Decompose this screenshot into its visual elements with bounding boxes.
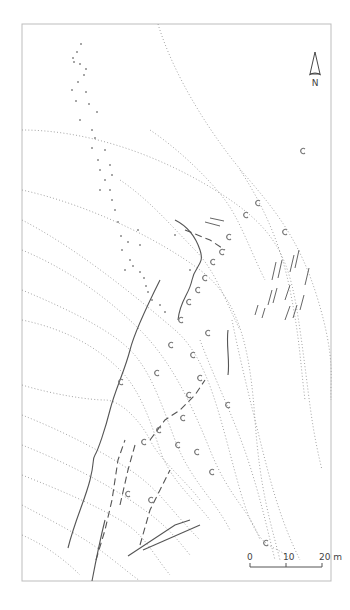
solid-feature-line [227, 330, 228, 375]
solid-feature-line [68, 280, 160, 548]
survey-point [79, 119, 81, 121]
contour-line [22, 190, 280, 560]
stroke-feature [272, 262, 276, 280]
north-label: N [312, 78, 319, 88]
contour-line [150, 130, 265, 280]
survey-point [71, 89, 73, 91]
contour-line [22, 535, 80, 575]
c-feature-icon [126, 491, 130, 496]
stroke-feature [210, 218, 224, 221]
survey-point [120, 235, 122, 237]
stroke-feature [285, 285, 290, 300]
c-feature-icon [203, 275, 207, 280]
c-feature-icon [301, 148, 305, 153]
short-stroke-features [205, 218, 309, 320]
c-feature-icon [169, 342, 173, 347]
site-plan-map: N 0 10 20 m [0, 0, 350, 610]
stroke-feature [268, 290, 272, 305]
survey-point [91, 129, 93, 131]
solid-feature-line [128, 520, 190, 556]
contour-line [22, 385, 200, 500]
scale-bar: 0 10 20 m [247, 552, 342, 567]
survey-point [75, 100, 77, 102]
survey-point [96, 111, 98, 113]
survey-point [189, 269, 191, 271]
solid-feature-line [92, 520, 105, 581]
c-feature-icon [187, 392, 191, 397]
dashed-linear-features [96, 230, 225, 560]
contour-line [158, 24, 331, 400]
c-feature-icon [155, 370, 159, 375]
survey-point [111, 174, 113, 176]
survey-point [80, 43, 82, 45]
stroke-feature [273, 288, 277, 303]
c-feature-icon [179, 317, 183, 322]
contour-line [200, 340, 275, 560]
c-feature-icon [191, 352, 195, 357]
survey-points [71, 43, 191, 313]
survey-point [94, 137, 96, 139]
survey-point [79, 63, 81, 65]
survey-point [145, 285, 147, 287]
survey-point [151, 299, 153, 301]
survey-point [139, 271, 141, 273]
survey-point [83, 74, 85, 76]
stroke-feature [290, 255, 294, 272]
stroke-feature [262, 308, 265, 318]
solid-linear-features [68, 220, 229, 581]
stroke-feature [295, 250, 299, 268]
survey-point [174, 234, 176, 236]
north-arrow: N [309, 52, 321, 88]
survey-point [72, 57, 74, 59]
stroke-feature [285, 306, 290, 320]
survey-point [99, 189, 101, 191]
c-feature-icon [176, 442, 180, 447]
scale-bar-line [250, 563, 322, 567]
c-feature-icon [195, 449, 199, 454]
survey-point [139, 244, 141, 246]
c-feature-icon [226, 402, 230, 407]
survey-point [147, 291, 149, 293]
stroke-feature [205, 222, 220, 226]
survey-point [127, 241, 129, 243]
survey-point [76, 51, 78, 53]
c-feature-icon [283, 229, 287, 234]
stroke-feature [255, 305, 258, 315]
map-frame [22, 24, 331, 581]
survey-point [121, 249, 123, 251]
survey-point [143, 277, 145, 279]
c-feature-icon [256, 200, 260, 205]
dashed-feature-line [140, 470, 170, 545]
contour-line [240, 170, 305, 400]
survey-point [109, 189, 111, 191]
survey-point [111, 199, 113, 201]
c-feature-icon [244, 212, 248, 217]
survey-point [85, 68, 87, 70]
survey-point [164, 311, 166, 313]
north-arrow-icon [309, 52, 321, 75]
survey-point [124, 269, 126, 271]
survey-point [91, 147, 93, 149]
survey-point [117, 221, 119, 223]
scale-label-20m: 20 m [319, 552, 342, 562]
stroke-feature [300, 295, 304, 310]
c-shaped-features [119, 148, 305, 545]
stroke-feature [278, 260, 282, 278]
contour-line [22, 505, 140, 581]
survey-point [85, 91, 87, 93]
c-feature-icon [227, 234, 231, 239]
c-feature-icon [220, 249, 224, 254]
stroke-feature [305, 268, 309, 285]
survey-point [104, 179, 106, 181]
dashed-feature-line [150, 380, 205, 440]
c-feature-icon [187, 299, 191, 304]
contour-line [22, 415, 200, 540]
contour-lines [22, 24, 331, 581]
contour-line [22, 250, 260, 540]
survey-point [109, 164, 111, 166]
survey-point [104, 149, 106, 151]
solid-feature-line [143, 525, 200, 550]
c-feature-icon [264, 540, 268, 545]
c-feature-icon [210, 469, 214, 474]
survey-point [129, 259, 131, 261]
